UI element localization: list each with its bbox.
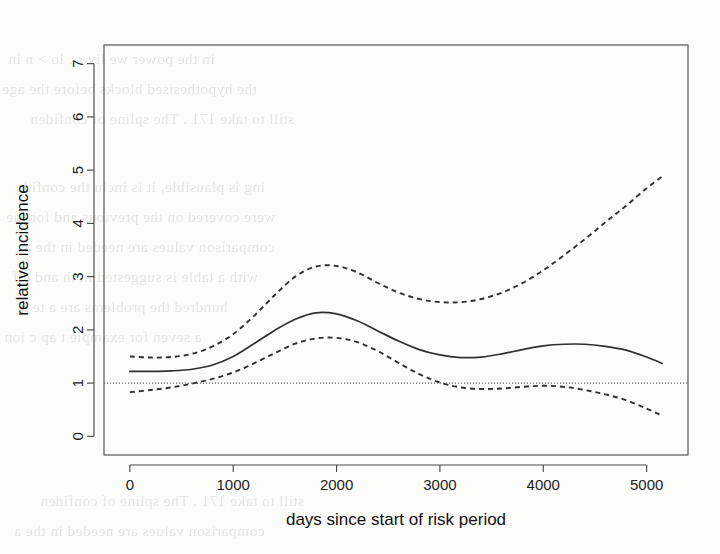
x-tick-label: 0 xyxy=(126,476,134,493)
y-axis-title: relative incidence xyxy=(13,184,32,315)
chart-canvas: 010002000300040005000 01234567 days sinc… xyxy=(0,0,720,554)
y-tick-label: 0 xyxy=(70,432,87,440)
x-axis: 010002000300040005000 xyxy=(126,465,664,493)
upper-confidence-limit-curve xyxy=(130,177,662,358)
x-tick-label: 1000 xyxy=(217,476,250,493)
x-tick-label: 2000 xyxy=(320,476,353,493)
relative-incidence-chart: 010002000300040005000 01234567 days sinc… xyxy=(0,0,720,554)
y-tick-label: 1 xyxy=(70,379,87,387)
plot-frame xyxy=(104,45,688,455)
y-tick-label: 4 xyxy=(70,219,87,227)
y-axis: 01234567 xyxy=(70,59,95,440)
y-tick-label: 6 xyxy=(70,113,87,121)
figure-page: in the power we liv s . lo > n in the hy… xyxy=(0,0,720,554)
plot-frame-group xyxy=(104,45,688,455)
y-tick-label: 5 xyxy=(70,166,87,174)
y-tick-label: 7 xyxy=(70,59,87,67)
series-group xyxy=(130,177,662,416)
x-tick-label: 5000 xyxy=(630,476,663,493)
x-tick-label: 4000 xyxy=(527,476,560,493)
y-tick-label: 2 xyxy=(70,326,87,334)
x-tick-label: 3000 xyxy=(423,476,456,493)
relative-incidence-curve xyxy=(130,312,662,371)
lower-confidence-limit-curve xyxy=(130,337,662,415)
y-tick-label: 3 xyxy=(70,272,87,280)
x-axis-title: days since start of risk period xyxy=(286,510,506,529)
